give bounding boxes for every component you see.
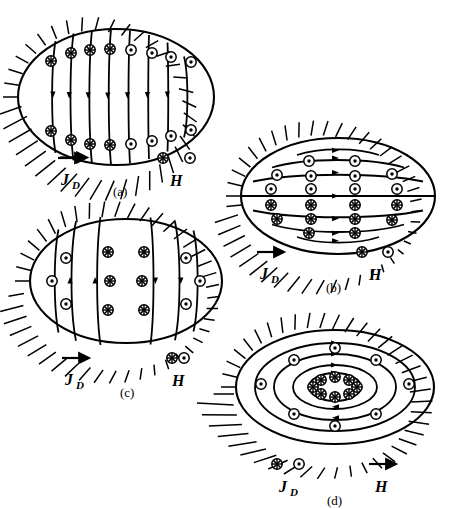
panel-a-boundary [18,29,214,165]
panel-a-field-label: H [169,172,183,189]
panel-d-current-label: J [278,478,288,495]
panel-c-field-label: H [171,372,185,389]
panel-d-current-sub: D [289,486,298,498]
panel-b-current-label: J [259,265,269,282]
panel-c-legend: J D H (c) [62,353,189,400]
panel-d-legend: J D H (d) [272,459,395,508]
panel-a-current-sub: D [71,179,80,191]
panel-b-current-sub: D [270,273,279,285]
panel-d-caption: (d) [327,493,342,508]
panel-c-current-label: J [64,371,74,388]
panel-c-field-icon-into [167,353,177,363]
panel-c-boundary [30,219,222,343]
panel-d-field-label: H [374,478,388,495]
panel-c-field-icon-out [179,353,189,363]
panel-d-current-icon-into [272,459,282,469]
panel-a-field-icon-out [185,153,195,163]
panel-d-current-icon-out [294,459,304,469]
figure-svg: J D H (a) J D H (b) J D H (c) J D H (d) [0,0,453,509]
panel-d [197,313,434,479]
panel-b-field-icon-out [383,247,393,257]
panel-b-field-label: H [368,266,382,283]
panel-b [215,121,435,294]
panel-b-caption: (b) [326,280,341,295]
panel-b-field-icon-into [357,247,367,257]
panel-a-current-label: J [60,171,70,188]
panel-a-caption: (a) [113,184,127,199]
panel-c-caption: (c) [120,385,134,400]
panel-c-current-sub: D [75,379,84,391]
panel-a-field-icon-into [158,153,168,163]
figure-container: J D H (a) J D H (b) J D H (c) J D H (d) [0,0,453,509]
